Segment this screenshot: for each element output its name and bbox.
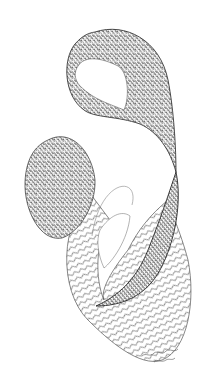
artwork-canvas (0, 0, 203, 391)
